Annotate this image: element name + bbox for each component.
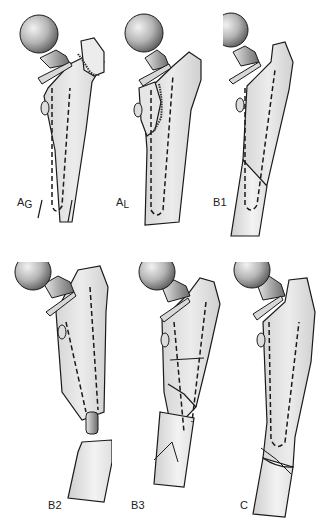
- label-b2: B2: [48, 499, 62, 511]
- label-ag-sub: G: [25, 199, 33, 210]
- label-al-main: A: [116, 196, 124, 208]
- label-b1: B1: [213, 196, 227, 208]
- panel-b3: B3: [112, 262, 224, 525]
- label-b3: B3: [131, 499, 145, 511]
- femur-c-illustration: [223, 262, 335, 525]
- label-c: C: [240, 499, 248, 511]
- panel-al: AL: [111, 0, 223, 262]
- label-ag: AG: [17, 196, 33, 210]
- label-b3-main: B3: [131, 499, 145, 511]
- panel-b2: B2: [0, 262, 112, 525]
- femur-b1-illustration: [223, 0, 335, 262]
- label-b2-main: B2: [48, 499, 62, 511]
- panel-c: C: [223, 262, 335, 525]
- panel-b1: B1: [223, 0, 335, 262]
- femur-ag-illustration: [0, 0, 112, 262]
- label-ag-main: A: [17, 196, 25, 208]
- label-b1-main: B1: [213, 196, 227, 208]
- label-c-main: C: [240, 499, 248, 511]
- femur-b3-illustration: [112, 262, 224, 525]
- panel-ag: AG: [0, 0, 112, 262]
- femur-al-illustration: [111, 0, 223, 262]
- label-al: AL: [116, 196, 129, 210]
- femur-b2-illustration: [0, 262, 112, 525]
- label-al-sub: L: [124, 199, 130, 210]
